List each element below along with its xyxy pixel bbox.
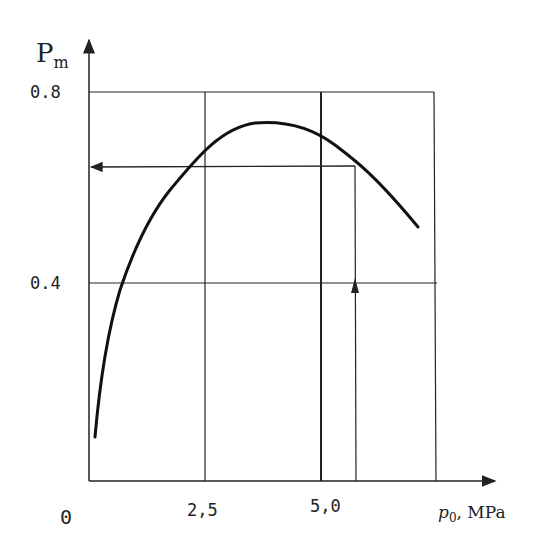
upward-arrow-head [351, 278, 359, 293]
chart-plot [0, 0, 535, 543]
x-axis-symbol: p [438, 502, 449, 522]
x-tick-2.5: 2,5 [187, 500, 218, 520]
x-tick-0: 0 [60, 505, 72, 529]
horizontal-arrow [91, 166, 355, 167]
y-axis-subscript: m [54, 53, 69, 72]
x-axis-label: p0, MPa [438, 502, 506, 525]
x-axis-unit: , MPa [457, 502, 506, 522]
x-tick-5.0: 5,0 [310, 496, 341, 516]
x-axis-subscript: 0 [449, 511, 457, 525]
y-tick-0.8: 0.8 [30, 82, 61, 102]
y-axis-label: Pm [36, 38, 69, 72]
data-curve [95, 122, 418, 437]
y-tick-0.4: 0.4 [30, 273, 61, 293]
y-axis-symbol: P [36, 38, 54, 68]
grid-lines [89, 92, 437, 481]
